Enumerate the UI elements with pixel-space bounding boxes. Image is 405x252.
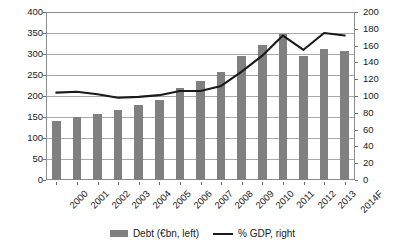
gdp-polyline [56, 33, 344, 98]
x-axis-tick-label: 2007 [212, 188, 235, 211]
x-axis-tick-label: 2008 [232, 188, 255, 211]
y-axis-right-tick-label: 160 [363, 41, 379, 51]
legend-item-debt[interactable]: Debt (€bn, left) [110, 228, 199, 239]
x-axis-tick-label: 2001 [88, 188, 111, 211]
y-axis-left-tick-label: 100 [3, 133, 43, 143]
x-axis-tick [242, 182, 243, 185]
x-axis-tick [56, 182, 57, 185]
y-axis-left-tick-label: 0 [3, 175, 43, 185]
y-axis-left-tick-label: 200 [3, 91, 43, 101]
legend-label-gdp-percent: % GDP, right [238, 228, 295, 239]
y-axis-left: 050100150200250300350400 [0, 0, 43, 252]
x-axis-tick [283, 182, 284, 185]
x-axis-tick-label: 2009 [253, 188, 276, 211]
x-axis-tick-label: 2005 [170, 188, 193, 211]
x-axis-tick [77, 182, 78, 185]
line-swatch-icon [213, 233, 233, 235]
x-axis-tick [180, 182, 181, 185]
x-axis-tick-label: 2013 [335, 188, 358, 211]
y-axis-right-tick-label: 80 [363, 108, 374, 118]
x-axis-tick [304, 182, 305, 185]
y-axis-left-tick-label: 300 [3, 49, 43, 59]
y-axis-right-tick-label: 140 [363, 57, 379, 67]
y-axis-left-tick-label: 150 [3, 112, 43, 122]
x-axis-tick [262, 182, 263, 185]
y-axis-right-tick-label: 40 [363, 141, 374, 151]
y-axis-left-tick-label: 250 [3, 70, 43, 80]
x-axis-tick-label: 2012 [315, 188, 338, 211]
legend-item-gdp-percent[interactable]: % GDP, right [213, 228, 295, 239]
chart-legend: Debt (€bn, left) % GDP, right [0, 228, 405, 239]
x-axis-tick-label: 2004 [150, 188, 173, 211]
y-axis-right-tick-label: 0 [363, 175, 368, 185]
x-axis-tick-label: 2011 [294, 188, 316, 210]
x-axis-tick [139, 182, 140, 185]
x-axis-labels: 2000200120022003200420052006200720082009… [46, 182, 355, 222]
x-axis-tick-label: 2003 [129, 188, 152, 211]
y-axis-left-tick [43, 180, 46, 181]
y-axis-right-tick-label: 120 [363, 74, 379, 84]
bar-swatch-icon [110, 230, 128, 237]
x-axis-tick [201, 182, 202, 185]
x-axis-tick [345, 182, 346, 185]
x-axis-tick [221, 182, 222, 185]
y-axis-right-tick-label: 20 [363, 158, 374, 168]
x-axis-tick [324, 182, 325, 185]
y-axis-left-tick-label: 50 [3, 154, 43, 164]
x-axis-tick [98, 182, 99, 185]
x-axis-tick-label: 2002 [109, 188, 132, 211]
x-axis-tick-label: 2000 [67, 188, 90, 211]
x-axis-tick-label: 2006 [191, 188, 214, 211]
x-axis-tick-label: 2010 [273, 188, 296, 211]
y-axis-right-tick-label: 180 [363, 24, 379, 34]
line-series-svg [46, 12, 355, 180]
y-axis-right-tick-label: 60 [363, 125, 374, 135]
y-axis-left-tick-label: 350 [3, 28, 43, 38]
legend-label-debt: Debt (€bn, left) [133, 228, 199, 239]
y-axis-left-tick-label: 400 [3, 7, 43, 17]
line-series-gdp-percent [46, 12, 355, 180]
x-axis-tick [159, 182, 160, 185]
y-axis-right-tick-label: 100 [363, 91, 379, 101]
y-axis-right-tick-label: 200 [363, 7, 379, 17]
x-axis-tick [118, 182, 119, 185]
chart-screenshot: 050100150200250300350400 020406080100120… [0, 0, 405, 252]
